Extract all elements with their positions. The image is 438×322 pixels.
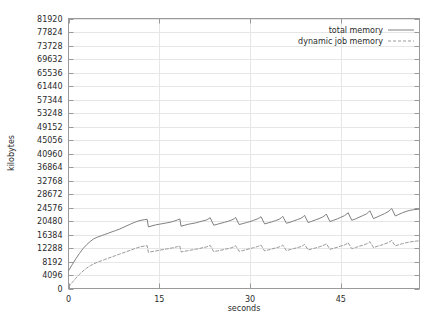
y-tick-label: 40960	[37, 150, 62, 159]
y-tick-label: 4096	[42, 271, 62, 280]
x-tick-label: 0	[66, 295, 71, 304]
x-axis-title: seconds	[228, 304, 261, 313]
y-tick-label: 57344	[37, 96, 62, 105]
y-tick-label: 65536	[37, 69, 62, 78]
memory-usage-line-chart: 0409681921228816384204802457628672327683…	[0, 0, 438, 322]
y-tick-label: 81920	[37, 15, 62, 24]
y-tick-label: 20480	[37, 217, 62, 226]
y-tick-label: 45056	[37, 136, 62, 145]
y-tick-label: 53248	[37, 109, 62, 118]
y-axis-title: kilobytes	[7, 135, 16, 171]
x-tick-label: 15	[154, 295, 164, 304]
x-tick-label: 30	[245, 295, 255, 304]
y-tick-label: 8192	[42, 258, 62, 267]
y-tick-label: 61440	[37, 82, 62, 91]
y-tick-label: 69632	[37, 55, 62, 64]
y-tick-label: 0	[57, 285, 62, 294]
y-tick-label: 28672	[37, 190, 62, 199]
y-tick-label: 24576	[37, 204, 62, 213]
chart-background	[0, 0, 438, 322]
y-tick-label: 32768	[37, 177, 62, 186]
legend-label-total-memory: total memory	[329, 26, 384, 35]
y-tick-label: 77824	[37, 28, 62, 37]
y-tick-label: 16384	[37, 231, 62, 240]
y-tick-label: 73728	[37, 42, 62, 51]
y-tick-label: 12288	[37, 244, 62, 253]
y-tick-label: 49152	[37, 123, 62, 132]
y-tick-label: 36864	[37, 163, 62, 172]
chart-container: 0409681921228816384204802457628672327683…	[0, 0, 438, 322]
y-axis-tick-labels: 0409681921228816384204802457628672327683…	[37, 15, 62, 294]
x-tick-label: 45	[336, 295, 346, 304]
legend-label-dynamic-job-memory: dynamic job memory	[298, 37, 383, 46]
